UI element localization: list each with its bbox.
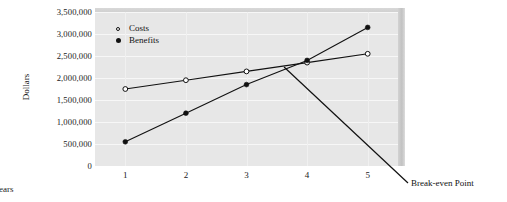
- breakeven-line-chart: 0500,0001,000,0001,500,0002,000,0002,500…: [0, 0, 507, 202]
- series-layer: [0, 0, 507, 202]
- data-point-benefits: [244, 82, 249, 87]
- data-point-costs: [123, 87, 128, 92]
- data-point-benefits: [305, 58, 310, 63]
- breakeven-leader-line: [284, 67, 408, 183]
- data-point-benefits: [184, 111, 189, 116]
- data-point-costs: [365, 51, 370, 56]
- data-point-benefits: [123, 139, 128, 144]
- data-point-benefits: [365, 25, 370, 30]
- breakeven-annotation-label: Break-even Point: [411, 178, 474, 188]
- data-point-costs: [244, 69, 249, 74]
- data-point-costs: [184, 78, 189, 83]
